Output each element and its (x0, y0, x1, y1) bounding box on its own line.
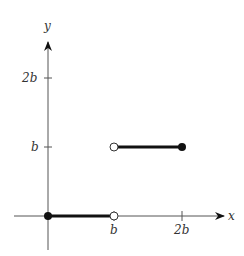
y-axis-label: y (43, 19, 51, 33)
x-tick-label-2b: 2b (173, 223, 189, 237)
y-tick-label-b: b (31, 140, 39, 154)
step-function-graph: x y 2b b b 2b (0, 0, 244, 256)
segment-1-open-point (110, 212, 118, 220)
x-axis-label: x (228, 209, 235, 223)
y-tick-label-2b: 2b (21, 71, 37, 85)
segment-2-open-point (110, 143, 118, 151)
segment-1-closed-point (44, 212, 52, 220)
segment-2-closed-point (178, 143, 186, 151)
x-tick-label-b: b (110, 223, 118, 237)
